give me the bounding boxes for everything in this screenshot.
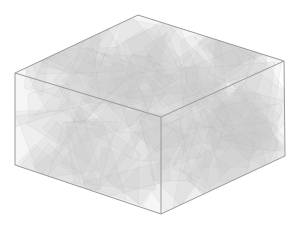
box-visualization (0, 0, 297, 228)
plane-network (0, 0, 297, 228)
